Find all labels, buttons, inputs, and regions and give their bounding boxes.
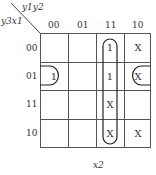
bottom-variable-label: x2 [93, 160, 104, 170]
column-11-group-loop [103, 39, 117, 144]
wrap-group-right-loop [133, 66, 151, 85]
wrap-group-left-loop [40, 66, 58, 85]
group-loops [0, 0, 156, 175]
